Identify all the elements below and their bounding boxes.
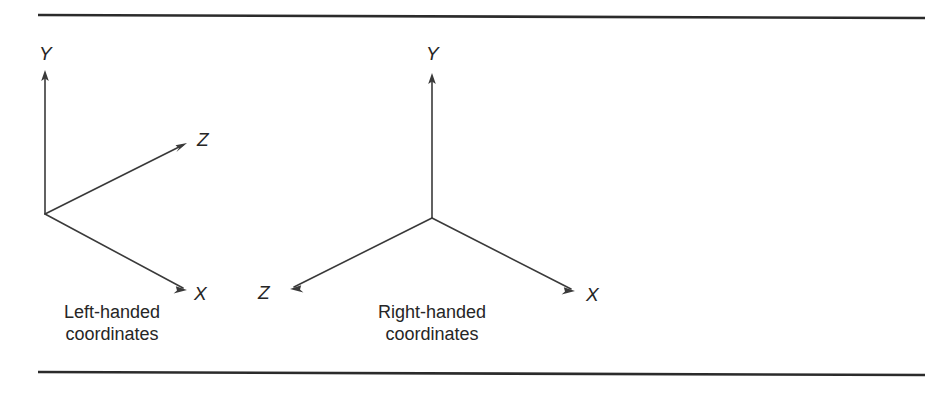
left-x-axis-label: X bbox=[193, 283, 208, 304]
bottom-rule bbox=[38, 372, 925, 375]
left-z-axis-label: Z bbox=[196, 129, 210, 150]
left-caption-line-2: coordinates bbox=[65, 324, 158, 344]
left-y-axis: Y bbox=[39, 43, 53, 214]
right-x-axis: X bbox=[432, 218, 600, 305]
right-y-axis: Y bbox=[426, 43, 440, 218]
right-handed-coordinate-system: Y Z X Right-handed coordinates bbox=[257, 43, 600, 344]
figure-canvas: Y Z X Left-handed coordinates bbox=[0, 0, 952, 393]
right-x-axis-line bbox=[432, 218, 571, 289]
right-caption-line-1: Right-handed bbox=[378, 302, 486, 322]
left-z-axis: Z bbox=[45, 129, 210, 214]
right-y-axis-label: Y bbox=[426, 43, 440, 64]
left-handed-coordinate-system: Y Z X Left-handed coordinates bbox=[39, 43, 210, 344]
left-caption-line-1: Left-handed bbox=[64, 302, 160, 322]
coordinate-systems-figure: Y Z X Left-handed coordinates bbox=[0, 0, 952, 393]
right-x-axis-label: X bbox=[585, 284, 600, 305]
top-rule bbox=[38, 15, 925, 18]
left-z-axis-line bbox=[45, 145, 183, 214]
right-z-axis-line bbox=[294, 218, 432, 287]
left-y-axis-label: Y bbox=[39, 43, 53, 64]
left-x-axis-line bbox=[45, 214, 183, 288]
left-x-axis: X bbox=[45, 214, 208, 304]
right-caption-line-2: coordinates bbox=[385, 324, 478, 344]
right-z-axis-label: Z bbox=[257, 282, 271, 303]
right-z-axis: Z bbox=[257, 218, 432, 303]
